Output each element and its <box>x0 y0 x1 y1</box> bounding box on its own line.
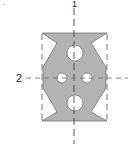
top-large-hole <box>67 45 83 61</box>
bottom-large-hole <box>67 95 83 111</box>
axis-2-label: 2 <box>16 73 22 84</box>
cross-section-diagram: .. 1 2 <box>0 0 130 146</box>
axis-1-label: 1 <box>72 0 77 9</box>
corner-mark: .. <box>2 0 5 6</box>
